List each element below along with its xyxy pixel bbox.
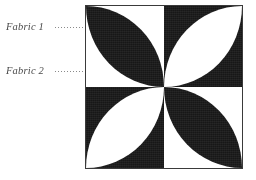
quilt-block-graphic xyxy=(86,6,242,168)
annotation-label-fabric-1: Fabric 1 xyxy=(6,21,44,33)
quilt-block xyxy=(85,5,243,169)
annotation-label-fabric-2: Fabric 2 xyxy=(6,65,44,77)
quilt-block-diagram: Fabric 1 Fabric 2 xyxy=(0,0,256,180)
